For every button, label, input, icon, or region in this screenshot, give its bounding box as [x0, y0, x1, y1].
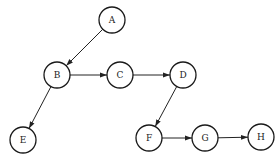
node-h: H — [248, 124, 274, 150]
node-label: F — [146, 133, 152, 143]
node-label: D — [179, 70, 186, 80]
node-g: G — [192, 125, 218, 151]
node-label: E — [20, 135, 27, 145]
node-e: E — [10, 127, 36, 153]
node-d: D — [170, 62, 196, 88]
node-a: A — [99, 7, 125, 33]
node-c: C — [107, 62, 133, 88]
edge-d-to-f — [155, 86, 177, 126]
node-label: A — [108, 15, 116, 25]
node-label: H — [257, 132, 265, 142]
node-f: F — [136, 125, 162, 151]
edge-a-to-b — [66, 29, 103, 66]
directed-graph: ABCDEFGH — [0, 0, 279, 162]
node-b: B — [44, 62, 70, 88]
edge-g-to-h — [218, 137, 248, 138]
edge-b-to-e — [29, 87, 51, 129]
node-label: B — [54, 70, 61, 80]
node-label: G — [201, 133, 208, 143]
nodes-group: ABCDEFGH — [10, 7, 274, 153]
node-label: C — [117, 70, 124, 80]
